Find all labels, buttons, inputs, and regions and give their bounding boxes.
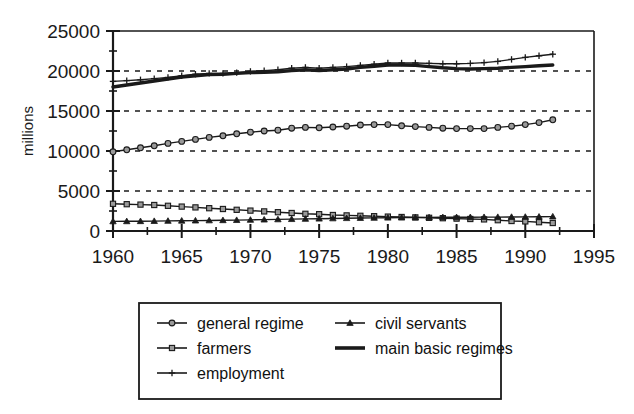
data-point-marker bbox=[207, 206, 212, 211]
data-point-marker bbox=[275, 210, 280, 215]
data-point-marker bbox=[151, 143, 157, 149]
data-point-marker bbox=[165, 141, 171, 147]
data-point-marker bbox=[110, 149, 116, 155]
data-point-marker bbox=[206, 135, 212, 141]
data-point-marker bbox=[165, 203, 170, 208]
data-point-marker bbox=[248, 129, 254, 135]
legend-label: main basic regimes bbox=[375, 340, 513, 357]
x-tick-label-1960: 1960 bbox=[92, 246, 134, 267]
y-tick-label-15000: 15000 bbox=[47, 101, 100, 122]
data-point-marker bbox=[124, 202, 129, 207]
data-point-marker bbox=[262, 209, 267, 214]
line-chart: 0500010000150002000025000 19601965197019… bbox=[0, 0, 634, 414]
y-tick-label-20000: 20000 bbox=[47, 61, 100, 82]
y-tick-label-10000: 10000 bbox=[47, 141, 100, 162]
y-tick-label-25000: 25000 bbox=[47, 21, 100, 42]
data-point-marker bbox=[536, 120, 542, 126]
y-tick-label-0: 0 bbox=[89, 221, 100, 242]
data-point-marker bbox=[275, 127, 281, 133]
x-tick-label-1980: 1980 bbox=[367, 246, 409, 267]
x-tick-label-1985: 1985 bbox=[435, 246, 477, 267]
legend-label: farmers bbox=[197, 340, 251, 357]
data-point-marker bbox=[138, 202, 143, 207]
data-point-marker bbox=[179, 139, 185, 145]
data-point-marker bbox=[344, 123, 350, 129]
data-point-marker bbox=[248, 208, 253, 213]
data-point-marker bbox=[124, 147, 130, 153]
data-point-marker bbox=[193, 205, 198, 210]
data-point-marker bbox=[234, 207, 239, 212]
y-axis-title: millions bbox=[19, 106, 36, 156]
data-point-marker bbox=[110, 201, 115, 206]
legend-label: general regime bbox=[197, 315, 304, 332]
chart-legend: general regimefarmersemploymentcivil ser… bbox=[139, 303, 513, 399]
data-point-marker bbox=[495, 125, 501, 131]
data-point-marker bbox=[440, 125, 446, 131]
data-point-marker bbox=[220, 133, 226, 139]
data-point-marker bbox=[550, 220, 555, 225]
data-point-marker bbox=[536, 220, 541, 225]
data-point-marker bbox=[179, 204, 184, 209]
data-point-marker bbox=[399, 123, 405, 129]
data-point-marker bbox=[371, 122, 377, 128]
data-point-marker bbox=[426, 125, 432, 131]
data-point-marker bbox=[289, 125, 295, 131]
data-point-marker bbox=[412, 124, 418, 130]
data-point-marker bbox=[357, 122, 363, 128]
data-point-marker bbox=[385, 122, 391, 128]
data-point-marker bbox=[550, 117, 556, 123]
data-point-marker bbox=[152, 202, 157, 207]
x-tick-label-1975: 1975 bbox=[298, 246, 340, 267]
data-point-marker bbox=[138, 145, 144, 151]
legend-label: employment bbox=[197, 365, 285, 382]
data-point-marker bbox=[467, 126, 473, 132]
data-point-marker bbox=[169, 345, 174, 350]
data-point-marker bbox=[454, 126, 460, 132]
x-tick-label-1965: 1965 bbox=[161, 246, 203, 267]
data-point-marker bbox=[261, 128, 267, 134]
data-point-marker bbox=[220, 206, 225, 211]
data-point-marker bbox=[169, 320, 175, 326]
data-point-marker bbox=[522, 122, 528, 128]
data-point-marker bbox=[316, 125, 322, 131]
data-point-marker bbox=[289, 210, 294, 215]
legend-label: civil servants bbox=[375, 315, 467, 332]
data-point-marker bbox=[303, 125, 309, 131]
data-point-marker bbox=[330, 124, 336, 130]
chart-figure: 0500010000150002000025000 19601965197019… bbox=[0, 0, 634, 414]
x-tick-label-1990: 1990 bbox=[504, 246, 546, 267]
data-point-marker bbox=[193, 137, 199, 143]
data-point-marker bbox=[509, 123, 515, 129]
x-tick-label-1995: 1995 bbox=[573, 246, 615, 267]
data-point-marker bbox=[234, 131, 240, 137]
x-tick-label-1970: 1970 bbox=[229, 246, 271, 267]
y-tick-label-5000: 5000 bbox=[58, 181, 100, 202]
data-point-marker bbox=[481, 126, 487, 132]
